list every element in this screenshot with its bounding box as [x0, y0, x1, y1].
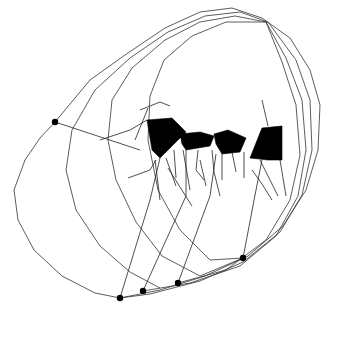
- anchor-dot: [240, 255, 246, 261]
- leg-line: [143, 150, 186, 291]
- leg-line: [260, 160, 278, 196]
- line-drawing: [0, 0, 341, 337]
- leg-line: [243, 160, 262, 258]
- chair-seats: [147, 118, 282, 160]
- leg-line: [196, 150, 204, 180]
- leg-line: [200, 160, 206, 186]
- leg-line: [168, 168, 192, 206]
- anchor-dot: [175, 280, 181, 286]
- chair-seat-shape: [214, 130, 246, 154]
- leg-line: [178, 154, 216, 283]
- anchor-dot: [52, 119, 58, 125]
- leg-line: [135, 108, 148, 140]
- anchor-dot: [140, 288, 146, 294]
- chair-seat-shape: [250, 126, 282, 160]
- chair-seat-shape: [180, 132, 214, 150]
- leg-line: [55, 122, 140, 150]
- leg-line: [140, 102, 170, 110]
- leg-line: [100, 120, 147, 140]
- leg-line: [183, 150, 190, 190]
- leg-line: [262, 100, 268, 126]
- anchor-dot: [117, 295, 123, 301]
- drawing-canvas: [0, 0, 341, 337]
- leg-line: [128, 160, 156, 178]
- leg-line: [280, 160, 286, 196]
- leg-line: [174, 150, 176, 178]
- leg-line: [232, 152, 236, 172]
- chair-seat-shape: [147, 118, 186, 158]
